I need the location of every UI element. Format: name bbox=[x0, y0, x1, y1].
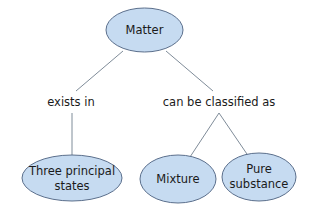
node-states-ellipse bbox=[22, 155, 122, 201]
connector-classified-pure bbox=[219, 113, 249, 157]
node-pure-substance: Pure substance bbox=[222, 153, 296, 201]
node-matter-label: Matter bbox=[126, 23, 164, 37]
node-mixture: Mixture bbox=[140, 155, 216, 203]
connector-matter-exists-in bbox=[76, 51, 123, 91]
connector-classified-mixture bbox=[190, 113, 219, 157]
node-three-principal-states: Three principal states bbox=[22, 155, 122, 201]
node-pure-label-line1: Pure bbox=[246, 162, 272, 176]
node-mixture-label: Mixture bbox=[156, 172, 199, 186]
node-pure-label-line2: substance bbox=[230, 177, 289, 191]
node-matter: Matter bbox=[106, 8, 183, 52]
link-label-classified-as: can be classified as bbox=[163, 95, 275, 109]
node-states-label-line2: states bbox=[54, 179, 89, 193]
node-states-label-line1: Three principal bbox=[28, 164, 115, 178]
link-label-exists-in: exists in bbox=[47, 95, 95, 109]
connector-matter-classified bbox=[166, 51, 213, 91]
concept-map: Matter exists in can be classified as Th… bbox=[0, 0, 319, 219]
